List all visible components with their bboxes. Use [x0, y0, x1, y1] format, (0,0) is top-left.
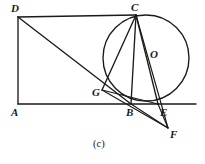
segment-DC [18, 15, 136, 17]
figure-caption: (c) [93, 139, 105, 150]
vertex-label-D: D [11, 3, 19, 14]
geometry-figure: D C O G A B E F (c) [0, 0, 205, 164]
vertex-label-G: G [92, 87, 100, 98]
segment-GF [102, 90, 168, 128]
vertex-label-A: A [11, 107, 18, 118]
vertex-label-C: C [131, 2, 138, 13]
segment-GE [102, 90, 158, 104]
segment-CB [131, 15, 136, 104]
vertex-label-O: O [150, 49, 158, 60]
segment-CG [102, 15, 136, 90]
vertex-label-B: B [126, 107, 133, 118]
vertex-label-E: E [160, 107, 167, 118]
vertex-label-F: F [170, 129, 177, 140]
